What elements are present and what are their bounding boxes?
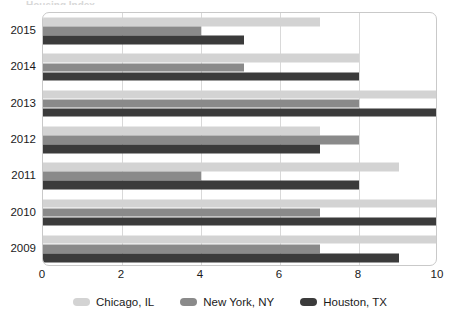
legend-swatch-icon [73,298,90,306]
legend-item[interactable]: Chicago, IL [73,296,154,308]
legend-swatch-icon [300,298,317,306]
legend-label: New York, NY [203,296,274,308]
y-axis-tick-label: 2010 [0,206,36,218]
x-axis-tick-label: 8 [355,268,361,280]
legend-label: Houston, TX [323,296,387,308]
x-axis-tick-label: 2 [118,268,124,280]
y-axis-tick-label: 2015 [0,24,36,36]
legend-swatch-icon [180,298,197,306]
legend-item[interactable]: Houston, TX [300,296,387,308]
y-axis-labels: 2015201420132012201120102009 [0,12,460,266]
x-axis-tick-label: 4 [197,268,203,280]
x-axis-tick-label: 10 [431,268,444,280]
y-axis-tick-label: 2011 [0,169,36,181]
legend-label: Chicago, IL [96,296,154,308]
y-axis-tick-label: 2012 [0,133,36,145]
y-axis-tick-label: 2014 [0,60,36,72]
y-axis-tick-label: 2009 [0,242,36,254]
x-axis-tick-label: 0 [39,268,45,280]
legend-item[interactable]: New York, NY [180,296,274,308]
chart-title-remnant: Housing Index [26,0,176,5]
y-axis-tick-label: 2013 [0,97,36,109]
x-axis-tick-label: 6 [276,268,282,280]
x-axis-labels: 0246810 [0,268,460,286]
bar-chart: Housing Index 20152014201320122011201020… [0,0,460,322]
chart-legend: Chicago, ILNew York, NYHouston, TX [0,292,460,312]
